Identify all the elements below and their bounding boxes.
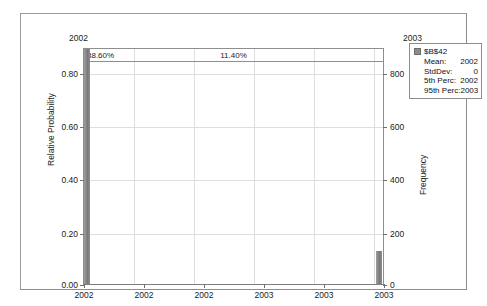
x-axis-tick: [84, 284, 85, 288]
x-axis-tick-label: 2002: [135, 290, 154, 300]
x-axis-tick-label: 2003: [375, 290, 394, 300]
y-axis-tick-label: 0.40: [61, 175, 78, 185]
annotation-left-percentage: 88.60%: [87, 50, 114, 61]
x-axis-tick: [384, 284, 385, 288]
legend-stat-key: 5th Perc:: [424, 76, 456, 86]
legend-stat-key: StdDev:: [424, 67, 452, 77]
bar-2003: [376, 251, 382, 284]
legend-swatch-icon: [414, 48, 421, 55]
y2-axis-tick-label: 800: [390, 69, 404, 79]
x-axis-tick: [264, 284, 265, 288]
y-axis-tick: [80, 74, 84, 75]
chart-screenshot: 2002 2003 Relative Probability Frequency…: [0, 0, 487, 306]
y-axis-tick-label: 0.60: [61, 122, 78, 132]
y-axis-tick-label: 0.20: [61, 229, 78, 239]
x-axis-tick: [324, 284, 325, 288]
x-axis-tick-label: 2002: [195, 290, 214, 300]
y-axis-tick: [80, 234, 84, 235]
legend-stats-list: Mean: 2002 StdDev: 0 5th Perc: 2002 95th…: [424, 57, 478, 95]
legend-stat-key: Mean:: [424, 57, 446, 67]
y2-axis-tick: [383, 234, 387, 235]
legend-header: $B$42: [414, 47, 478, 56]
x-axis-tick-label: 2003: [315, 290, 334, 300]
legend-stat-value: 2002: [460, 76, 478, 86]
x-axis-tick-label: 2002: [75, 290, 94, 300]
gridline-horizontal: [84, 127, 383, 128]
gridline-vertical: [254, 49, 255, 284]
y2-axis-title: Frequency: [418, 155, 428, 195]
corner-label-right: 2003: [403, 33, 422, 43]
chart-outer-frame: 2002 2003 Relative Probability Frequency…: [20, 13, 467, 290]
percentage-band: 88.60% 11.40%: [84, 49, 383, 62]
y2-axis-tick-label: 0: [390, 280, 395, 290]
y2-axis-tick-label: 200: [390, 229, 404, 239]
plot-area: 88.60% 11.40% 0.00 0.20 0.40 0.60 0.80 0…: [83, 48, 384, 285]
y2-axis-tick: [383, 74, 387, 75]
gridline-horizontal: [84, 234, 383, 235]
x-axis-tick-label: 2003: [255, 290, 274, 300]
y2-axis-tick: [383, 180, 387, 181]
annotation-center-percentage: 11.40%: [84, 50, 383, 61]
gridline-vertical: [314, 49, 315, 284]
y2-axis-tick-label: 400: [390, 175, 404, 185]
legend-stat-row: 5th Perc: 2002: [424, 76, 478, 86]
y-axis-tick: [80, 127, 84, 128]
y2-axis-tick-label: 600: [390, 122, 404, 132]
y-axis-title: Relative Probability: [46, 93, 56, 166]
legend-stat-value: 0: [474, 67, 478, 77]
bar-2002: [84, 49, 90, 284]
y2-axis-tick: [383, 127, 387, 128]
x-axis-tick: [204, 284, 205, 288]
gridline-horizontal: [84, 74, 383, 75]
gridline-vertical: [374, 49, 375, 284]
legend-series-name: $B$42: [424, 47, 447, 56]
x-axis-tick: [144, 284, 145, 288]
legend-stat-key: 95th Perc:: [424, 86, 460, 96]
legend-stat-row: StdDev: 0: [424, 67, 478, 77]
y-axis-tick-label: 0.00: [61, 280, 78, 290]
gridline-vertical: [194, 49, 195, 284]
corner-label-left: 2002: [69, 33, 88, 43]
gridline-horizontal: [84, 180, 383, 181]
legend-stat-row: 95th Perc: 2003: [424, 86, 478, 96]
legend-stat-value: 2002: [460, 57, 478, 67]
y-axis-tick: [80, 180, 84, 181]
y-axis-tick-label: 0.80: [61, 69, 78, 79]
legend-stat-value: 2003: [460, 86, 478, 96]
chart-legend: $B$42 Mean: 2002 StdDev: 0 5th Perc: 200…: [409, 43, 482, 99]
gridline-vertical: [134, 49, 135, 284]
legend-stat-row: Mean: 2002: [424, 57, 478, 67]
